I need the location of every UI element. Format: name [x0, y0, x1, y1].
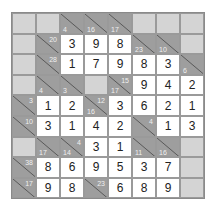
cell-r3-c3: [84, 75, 108, 96]
cell-r7-c3[interactable]: 9: [84, 157, 108, 178]
cell-value: 2: [189, 78, 196, 92]
cell-r4-c2[interactable]: 2: [60, 95, 84, 116]
cell-r7-c5[interactable]: 3: [132, 157, 156, 178]
cell-r2-c6[interactable]: 3: [156, 54, 180, 75]
cell-r2-c1: 28: [36, 54, 60, 75]
cell-value: 7: [93, 57, 100, 71]
cell-r3-c7[interactable]: 2: [180, 75, 204, 96]
cell-r6-c7: [180, 137, 204, 158]
cell-r7-c6[interactable]: 7: [156, 157, 180, 178]
cell-r2-c2[interactable]: 1: [60, 54, 84, 75]
cell-value: 9: [93, 37, 100, 51]
clue-down-sum: 23: [135, 46, 143, 53]
clue-right-sum: 12: [97, 97, 105, 104]
cell-r4-c3: 1612: [84, 95, 108, 116]
cell-r0-c2: 4: [60, 13, 84, 34]
cell-r5-c6[interactable]: 1: [156, 116, 180, 137]
cell-r6-c4[interactable]: 1: [108, 137, 132, 158]
cell-r6-c3[interactable]: 3: [84, 137, 108, 158]
cell-r3-c2: 3: [60, 75, 84, 96]
clue-down-sum: 17: [39, 149, 47, 156]
cell-r2-c0: [12, 54, 36, 75]
cell-r1-c4[interactable]: 8: [108, 34, 132, 55]
cell-r1-c0: [12, 34, 36, 55]
cell-r6-c1: 17: [36, 137, 60, 158]
clue-down-sum: 3: [63, 87, 67, 94]
cell-value: 4: [93, 119, 100, 133]
cell-r4-c7[interactable]: 1: [180, 95, 204, 116]
cell-r5-c1[interactable]: 3: [36, 116, 60, 137]
cell-value: 9: [165, 181, 172, 195]
cell-r7-c1[interactable]: 8: [36, 157, 60, 178]
cell-r5-c5: 4: [132, 116, 156, 137]
cell-r3-c6[interactable]: 4: [156, 75, 180, 96]
cell-r5-c3[interactable]: 4: [84, 116, 108, 137]
cell-r0-c3: 16: [84, 13, 108, 34]
cell-value: 9: [45, 181, 52, 195]
cell-r8-c5[interactable]: 8: [132, 178, 156, 199]
cell-r5-c7[interactable]: 3: [180, 116, 204, 137]
clue-right-sum: 15: [121, 77, 129, 84]
cell-r0-c1: [36, 13, 60, 34]
cell-r6-c2: 144: [60, 137, 84, 158]
cell-r1-c3[interactable]: 9: [84, 34, 108, 55]
cell-r8-c3: 23: [84, 178, 108, 199]
cell-r4-c6[interactable]: 2: [156, 95, 180, 116]
cell-r8-c7: [180, 178, 204, 199]
cell-value: 2: [117, 119, 124, 133]
kakuro-board: 4161720398231028179836431715942312161236…: [11, 12, 205, 199]
clue-right-sum: 17: [25, 180, 33, 187]
cell-value: 8: [69, 181, 76, 195]
cell-value: 1: [189, 99, 196, 113]
cell-r8-c6[interactable]: 9: [156, 178, 180, 199]
cell-r2-c7: 6: [180, 54, 204, 75]
cell-r3-c4: 1715: [108, 75, 132, 96]
cell-r8-c4[interactable]: 6: [108, 178, 132, 199]
cell-value: 8: [141, 181, 148, 195]
cell-r6-c6: 16: [156, 137, 180, 158]
clue-down-sum: 4: [39, 87, 43, 94]
clue-right-sum: 3: [29, 97, 33, 104]
clue-down-sum: 14: [63, 149, 71, 156]
cell-value: 1: [69, 119, 76, 133]
cell-value: 3: [189, 119, 196, 133]
cell-r2-c3[interactable]: 7: [84, 54, 108, 75]
cell-r1-c5: 23: [132, 34, 156, 55]
cell-value: 3: [45, 119, 52, 133]
clue-down-sum: 4: [63, 26, 67, 33]
clue-down-sum: 17: [111, 26, 119, 33]
cell-value: 4: [165, 78, 172, 92]
clue-down-sum: 16: [87, 108, 95, 115]
cell-r1-c7: [180, 34, 204, 55]
cell-value: 6: [69, 160, 76, 174]
cell-r5-c4[interactable]: 2: [108, 116, 132, 137]
cell-r3-c0: [12, 75, 36, 96]
cell-r7-c4[interactable]: 5: [108, 157, 132, 178]
cell-r1-c1: 20: [36, 34, 60, 55]
clue-right-sum: 28: [49, 56, 57, 63]
cell-r5-c2[interactable]: 1: [60, 116, 84, 137]
cell-r0-c7: [180, 13, 204, 34]
cell-r8-c1[interactable]: 9: [36, 178, 60, 199]
cell-r4-c5[interactable]: 6: [132, 95, 156, 116]
cell-r3-c1: 4: [36, 75, 60, 96]
cell-r3-c5[interactable]: 9: [132, 75, 156, 96]
cell-value: 1: [117, 140, 124, 154]
cell-r4-c1[interactable]: 1: [36, 95, 60, 116]
cell-r6-c5: 11: [132, 137, 156, 158]
cell-value: 6: [117, 181, 124, 195]
cell-value: 1: [69, 57, 76, 71]
cell-r1-c2[interactable]: 3: [60, 34, 84, 55]
cell-value: 9: [117, 57, 124, 71]
cell-value: 9: [93, 160, 100, 174]
clue-down-sum: 16: [159, 149, 167, 156]
cell-r4-c4[interactable]: 3: [108, 95, 132, 116]
cell-r7-c7: [180, 157, 204, 178]
cell-r6-c0: [12, 137, 36, 158]
clue-right-sum: 4: [149, 118, 153, 125]
cell-r7-c2[interactable]: 6: [60, 157, 84, 178]
cell-r8-c2[interactable]: 8: [60, 178, 84, 199]
cell-r2-c4[interactable]: 9: [108, 54, 132, 75]
cell-r2-c5[interactable]: 8: [132, 54, 156, 75]
cell-r1-c6: 10: [156, 34, 180, 55]
